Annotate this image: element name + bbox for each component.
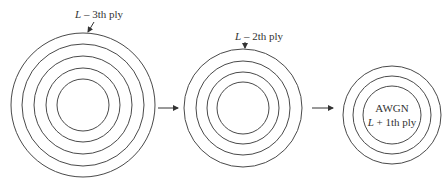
ring-3 [34,56,132,154]
label-rest: – 2th ply [241,30,283,42]
ring-3 [363,86,421,144]
label-rest: + 1th ply [374,116,417,128]
ring-2 [353,76,431,154]
ring-2 [22,44,144,166]
diagram-svg: L – 3th ply L – 2th ply AWGN L + 1th ply [0,0,448,183]
label-l-plus-1-ply: L + 1th ply [367,116,417,128]
ring-2 [196,61,290,155]
ring-1 [11,33,155,177]
label-var: L [74,8,81,20]
ply-diagram: L – 3th ply L – 2th ply AWGN L + 1th ply [0,0,448,183]
label-rest: – 3th ply [81,8,123,20]
stage-l-minus-2-ply: L – 2th ply [184,30,302,167]
ring-4 [217,82,269,134]
ring-5 [57,79,109,131]
stage-l-minus-3-ply: L – 3th ply [11,8,155,177]
stage-awgn-l-plus-1-ply: AWGN L + 1th ply [343,66,441,164]
label-l-minus-3-ply: L – 3th ply [74,8,123,20]
ring-1 [343,66,441,164]
label-l-minus-2-ply: L – 2th ply [234,30,283,42]
awgn-label: AWGN [375,102,408,114]
label-var: L [234,30,241,42]
label-var: L [367,116,374,128]
pointer-arrow-icon [88,22,94,32]
ring-3 [207,72,279,144]
ring-1 [184,49,302,167]
